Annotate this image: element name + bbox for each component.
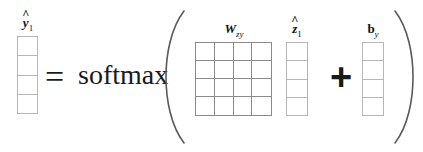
- output-vector: [17, 36, 38, 114]
- vector-cell: [18, 37, 37, 56]
- vector-cell: [363, 98, 383, 115]
- vector-cell: [287, 80, 307, 98]
- matrix-cell: [215, 61, 234, 79]
- equals-sign: =: [45, 60, 64, 94]
- weight-matrix-label: Wzy: [209, 22, 259, 39]
- matrix-cell: [234, 79, 253, 97]
- bias-vector-label: by: [361, 22, 385, 39]
- matrix-cell: [196, 43, 215, 61]
- y-hat-glyph: ^y: [23, 16, 29, 29]
- weight-matrix-label-sub: zy: [236, 29, 244, 39]
- weight-matrix: [195, 42, 272, 116]
- vector-cell: [363, 43, 383, 61]
- hat-accent-icon: ^: [291, 14, 298, 26]
- vector-cell: [363, 61, 383, 79]
- matrix-cell: [234, 97, 253, 115]
- matrix-cell: [234, 43, 253, 61]
- bias-vector-label-base: b: [367, 21, 374, 36]
- matrix-cell: [252, 97, 271, 115]
- vector-cell: [18, 95, 37, 113]
- close-paren-icon: [392, 8, 416, 146]
- vector-cell: [18, 56, 37, 75]
- matrix-cell: [196, 61, 215, 79]
- matrix-cell: [234, 61, 253, 79]
- vector-cell: [363, 80, 383, 98]
- output-vector-label-sub: 1: [29, 23, 34, 33]
- softmax-label: softmax: [78, 61, 168, 89]
- hidden-state-vector: [286, 42, 308, 116]
- z-hat-glyph: ^z: [292, 22, 297, 35]
- output-vector-label: ^y1: [17, 16, 39, 33]
- hidden-state-vector-label-sub: 1: [297, 29, 302, 39]
- matrix-cell: [252, 61, 271, 79]
- vector-cell: [287, 98, 307, 115]
- matrix-cell: [252, 43, 271, 61]
- matrix-cell: [215, 79, 234, 97]
- hat-accent-icon: ^: [22, 8, 29, 20]
- bias-vector-label-sub: y: [375, 29, 379, 39]
- matrix-cell: [215, 97, 234, 115]
- equation-figure: ^y1 = softmax Wzy ^z1: [0, 0, 423, 152]
- plus-sign: +: [330, 58, 352, 96]
- hidden-state-vector-label: ^z1: [286, 22, 308, 39]
- matrix-cell: [252, 79, 271, 97]
- matrix-cell: [215, 43, 234, 61]
- vector-cell: [287, 61, 307, 79]
- weight-matrix-label-base: W: [224, 21, 236, 36]
- vector-cell: [287, 43, 307, 61]
- vector-cell: [18, 76, 37, 95]
- matrix-cell: [196, 97, 215, 115]
- bias-vector: [362, 42, 384, 116]
- matrix-cell: [196, 79, 215, 97]
